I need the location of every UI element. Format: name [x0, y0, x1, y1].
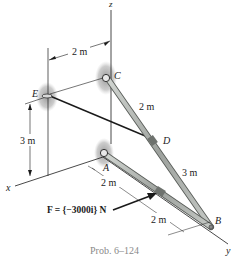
dim-DB-label: 3 m [182, 167, 198, 178]
caption: Prob. 6–124 [90, 245, 139, 256]
label-y-axis: y [225, 245, 231, 256]
joint-C [102, 74, 109, 81]
arrowhead [49, 56, 56, 60]
truss-diagram: 2 m 3 m 2 m 2 m 2 m 3 m C E D A B z x y … [0, 0, 233, 260]
y-axis [103, 157, 228, 244]
dim-height-label: 3 m [20, 135, 36, 146]
label-x-axis: x [5, 182, 11, 193]
force-label: F = {−3000i} N [47, 205, 107, 215]
ec-guide [50, 78, 103, 94]
collar-mid [156, 189, 164, 194]
arrowhead [28, 104, 32, 110]
dim-y-ext-2 [168, 222, 210, 235]
arrowhead [28, 170, 32, 176]
joint-B [209, 225, 213, 229]
joint-A [100, 149, 107, 156]
label-B: B [215, 215, 221, 226]
label-E: E [31, 88, 38, 99]
collar-D [150, 137, 155, 144]
label-z-axis: z [108, 0, 113, 9]
x-axis [15, 157, 103, 186]
label-A: A [102, 162, 110, 173]
label-D: D [162, 135, 171, 146]
dim-A-mid-label: 2 m [101, 177, 117, 188]
label-C: C [114, 70, 121, 81]
joint-E [42, 94, 52, 98]
dim-CD-label: 2 m [139, 101, 155, 112]
force-arrowhead [147, 193, 157, 200]
member-CB [108, 79, 211, 227]
dim-mid-B-label: 2 m [151, 214, 167, 225]
dim-top-label: 2 m [72, 46, 88, 57]
force-arrow [113, 196, 150, 210]
